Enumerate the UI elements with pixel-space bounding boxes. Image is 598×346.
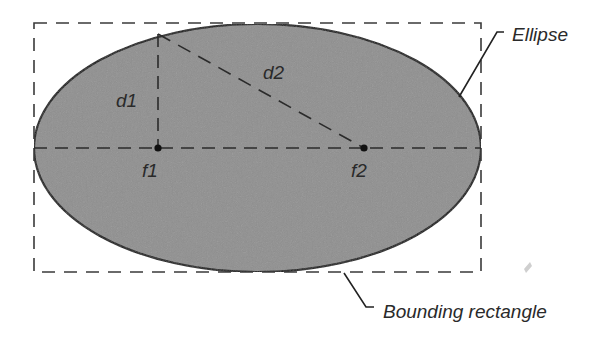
label-d2: d2 [263,62,285,83]
label-ellipse: Ellipse [512,24,568,45]
label-f1: f1 [142,160,158,181]
smudge-mark [524,262,532,273]
focus-2-dot [360,144,367,151]
focus-1-dot [154,144,161,151]
label-f2: f2 [351,160,367,181]
label-d1: d1 [116,90,137,111]
ellipse-diagram: d1 d2 f1 f2 Ellipse Bounding rectangle [0,0,598,346]
label-bounding-rectangle: Bounding rectangle [383,301,547,322]
bounding-rectangle-callout-leader [344,273,374,307]
